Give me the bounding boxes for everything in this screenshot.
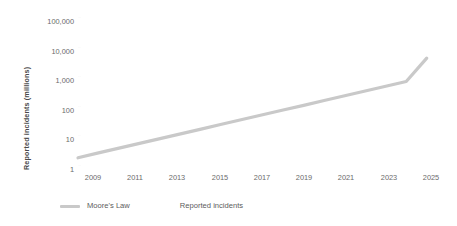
legend-item-moores-law[interactable]: Moore's Law — [60, 201, 130, 211]
y-tick-label: 1,000 — [0, 76, 74, 85]
legend-label: Reported incidents — [180, 201, 243, 211]
legend-line-swatch-icon — [60, 205, 80, 208]
x-tick-label: 2025 — [411, 172, 451, 184]
x-tick-label: 2021 — [326, 172, 366, 184]
line-chart: Reported incidents (millions) 100,000 10… — [0, 0, 457, 226]
x-tick-label: 2009 — [73, 172, 113, 184]
x-tick-label: 2017 — [242, 172, 282, 184]
x-axis-tick-labels: 2009 2011 2013 2015 2017 2019 2021 2023 … — [0, 172, 457, 186]
y-axis-tick-labels: 100,000 10,000 1,000 100 10 1 — [0, 0, 74, 226]
x-tick-label: 2011 — [115, 172, 155, 184]
y-tick-label: 10,000 — [0, 47, 74, 56]
y-tick-label: 100 — [0, 106, 74, 115]
x-tick-label: 2015 — [200, 172, 240, 184]
y-tick-label: 10 — [0, 135, 74, 144]
plot-area — [78, 17, 437, 175]
legend-label: Moore's Law — [87, 201, 130, 211]
x-tick-label: 2019 — [284, 172, 324, 184]
y-tick-label: 100,000 — [0, 17, 74, 26]
x-tick-label: 2013 — [157, 172, 197, 184]
x-tick-label: 2023 — [369, 172, 409, 184]
series-moores-law — [78, 17, 437, 175]
chart-legend: Moore's Law Reported incidents — [60, 199, 243, 213]
legend-item-reported-incidents[interactable]: Reported incidents — [180, 201, 243, 211]
